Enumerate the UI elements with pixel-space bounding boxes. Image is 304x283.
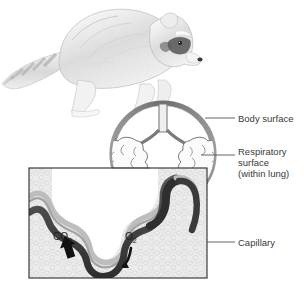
respiratory-surface-label-line3: (within lung) — [238, 168, 289, 179]
gas-exchange-figure: CO2 O2 Body surface Respiratory surface … — [0, 0, 304, 283]
o2-subscript: 2 — [133, 237, 137, 244]
trachea — [159, 104, 167, 132]
respiratory-surface-label-line1: Respiratory — [238, 146, 287, 157]
respiratory-surface-label-line2: surface — [238, 157, 269, 168]
body-surface-label: Body surface — [238, 113, 293, 124]
alveolar-gas-exchange-inset: CO2 O2 — [29, 168, 207, 278]
co2-subscript: 2 — [68, 237, 72, 244]
co2-formula: CO — [53, 231, 68, 242]
capillary-label: Capillary — [238, 237, 275, 248]
